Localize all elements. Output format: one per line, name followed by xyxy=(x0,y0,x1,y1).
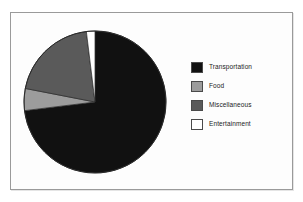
legend-swatch-entertainment xyxy=(191,119,203,130)
legend-item-label: Food xyxy=(209,83,224,90)
chart-legend: TransportationFoodMiscellaneousEntertain… xyxy=(191,58,287,134)
legend-item-label: Miscellaneous xyxy=(209,102,252,109)
legend-swatch-food xyxy=(191,81,203,92)
legend-item[interactable]: Miscellaneous xyxy=(191,96,287,115)
legend-item[interactable]: Transportation xyxy=(191,58,287,77)
legend-item-label: Transportation xyxy=(209,64,252,71)
pie-chart-figure: TransportationFoodMiscellaneousEntertain… xyxy=(0,0,303,202)
legend-item-label: Entertainment xyxy=(209,121,251,128)
pie-slice-group xyxy=(24,31,166,173)
legend-item[interactable]: Food xyxy=(191,77,287,96)
pie-chart-plot-area xyxy=(23,30,167,174)
legend-swatch-miscellaneous xyxy=(191,100,203,111)
pie-chart-svg xyxy=(23,30,167,174)
legend-item[interactable]: Entertainment xyxy=(191,115,287,134)
legend-swatch-transportation xyxy=(191,62,203,73)
